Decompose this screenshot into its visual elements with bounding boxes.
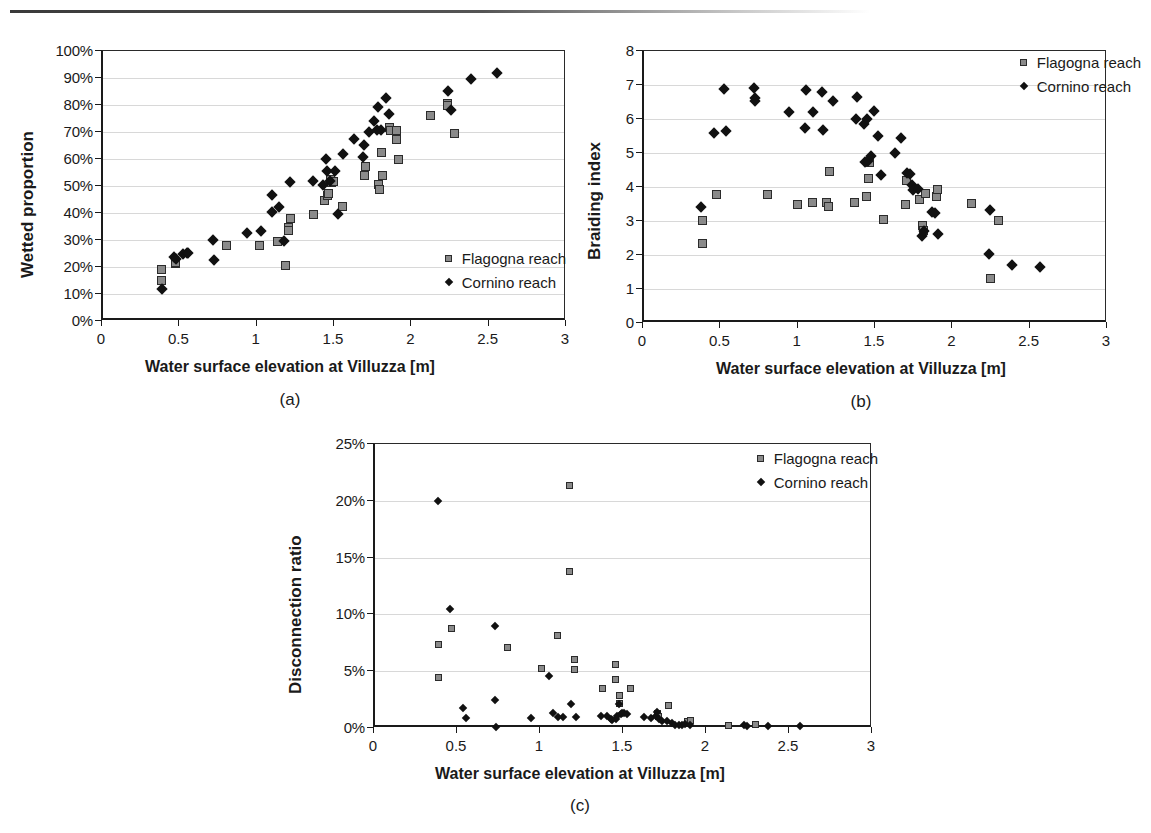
data-point-flagogna <box>566 568 573 575</box>
gridline <box>644 255 1105 256</box>
data-point-flagogna <box>309 210 318 219</box>
data-point-flagogna <box>825 167 834 176</box>
data-point-cornino <box>572 712 580 720</box>
data-point-cornino <box>799 122 810 133</box>
data-point-flagogna <box>725 722 732 729</box>
x-axis-tick-label: 2.5 <box>477 330 498 347</box>
x-axis-tick <box>539 727 540 733</box>
legend-label: Cornino reach <box>462 274 556 291</box>
data-point-flagogna <box>222 241 231 250</box>
panel-b-braiding-index: 01234567800.511.522.53Braiding indexWate… <box>571 28 1151 420</box>
panel-caption: (c) <box>270 796 890 816</box>
data-point-flagogna <box>538 665 545 672</box>
data-point-cornino <box>983 249 994 260</box>
y-axis-tick-label: 10% <box>23 285 93 302</box>
data-point-cornino <box>492 723 500 731</box>
data-point-cornino <box>255 225 266 236</box>
data-point-cornino <box>373 102 384 113</box>
data-point-cornino <box>852 91 863 102</box>
gray-square-marker-icon <box>445 255 452 262</box>
data-point-flagogna <box>392 135 401 144</box>
x-axis-tick <box>871 727 872 733</box>
gridline <box>103 159 564 160</box>
y-axis-tick <box>95 212 101 213</box>
x-axis-tick <box>642 322 643 328</box>
data-point-cornino <box>359 139 370 150</box>
data-point-cornino <box>1034 261 1045 272</box>
y-axis-tick <box>95 77 101 78</box>
data-point-flagogna <box>157 265 166 274</box>
y-axis-tick <box>95 131 101 132</box>
y-axis-tick-label: 25% <box>295 435 365 452</box>
x-axis-title: Water surface elevation at Villuzza [m] <box>270 765 890 783</box>
y-axis-title: Disconnection ratio <box>286 535 306 694</box>
data-point-flagogna <box>698 239 707 248</box>
x-axis-title: Water surface elevation at Villuzza [m] <box>0 358 580 376</box>
y-axis-tick <box>95 185 101 186</box>
data-point-flagogna <box>901 200 910 209</box>
x-axis-tick-label: 0 <box>369 737 377 754</box>
gray-square-marker-icon <box>1011 59 1037 66</box>
x-axis-tick-label: 0.5 <box>446 737 467 754</box>
data-point-cornino <box>696 202 707 213</box>
data-point-cornino <box>462 714 470 722</box>
data-point-flagogna <box>504 644 511 651</box>
data-point-cornino <box>796 721 804 729</box>
data-point-flagogna <box>665 702 672 709</box>
y-axis-tick-label: 20% <box>295 491 365 508</box>
gridline <box>644 221 1105 222</box>
data-point-cornino <box>383 108 394 119</box>
legend: Flagogna reachCornino reach <box>1011 50 1141 98</box>
gridline <box>103 132 564 133</box>
data-point-flagogna <box>808 198 817 207</box>
data-point-flagogna <box>554 632 561 639</box>
data-point-cornino <box>241 227 252 238</box>
x-axis-tick-label: 2 <box>947 332 955 349</box>
data-point-cornino <box>459 704 467 712</box>
data-point-flagogna <box>879 215 888 224</box>
data-point-cornino <box>348 134 359 145</box>
gridline <box>644 289 1105 290</box>
x-axis-tick <box>488 320 489 326</box>
data-point-cornino <box>465 73 476 84</box>
data-point-cornino <box>875 169 886 180</box>
black-diamond-marker-icon <box>757 478 765 486</box>
x-axis-tick-label: 2.5 <box>778 737 799 754</box>
y-axis-tick <box>636 220 642 221</box>
x-axis-tick-label: 2 <box>701 737 709 754</box>
x-axis-tick-label: 1 <box>792 332 800 349</box>
legend-entry: Cornino reach <box>436 270 566 294</box>
data-point-cornino <box>764 721 772 729</box>
data-point-flagogna <box>616 692 623 699</box>
data-point-cornino <box>445 605 453 613</box>
y-axis-tick-label: 7 <box>564 76 634 93</box>
data-point-cornino <box>816 86 827 97</box>
legend-label: Cornino reach <box>774 474 868 491</box>
x-axis-tick-label: 0 <box>638 332 646 349</box>
y-axis-tick <box>367 443 373 444</box>
x-axis-tick <box>256 320 257 326</box>
x-axis-tick-label: 1 <box>251 330 259 347</box>
y-axis-tick <box>636 186 642 187</box>
data-point-flagogna <box>599 685 606 692</box>
x-axis-tick <box>951 322 952 328</box>
x-axis-tick-label: 3 <box>561 330 569 347</box>
data-point-cornino <box>889 147 900 158</box>
data-point-flagogna <box>986 274 995 283</box>
data-point-flagogna <box>793 200 802 209</box>
x-axis-tick <box>373 727 374 733</box>
data-point-flagogna <box>627 685 634 692</box>
x-axis-tick <box>1106 322 1107 328</box>
gray-square-marker-icon <box>757 455 764 462</box>
data-point-cornino <box>207 234 218 245</box>
data-point-flagogna <box>967 199 976 208</box>
y-axis-tick-label: 90% <box>23 69 93 86</box>
data-point-flagogna <box>284 226 293 235</box>
y-axis-tick <box>95 266 101 267</box>
data-point-flagogna <box>378 171 387 180</box>
data-point-flagogna <box>712 190 721 199</box>
data-point-flagogna <box>994 216 1003 225</box>
black-diamond-marker-icon <box>748 479 774 485</box>
data-point-cornino <box>872 131 883 142</box>
panel-caption: (a) <box>0 390 580 410</box>
